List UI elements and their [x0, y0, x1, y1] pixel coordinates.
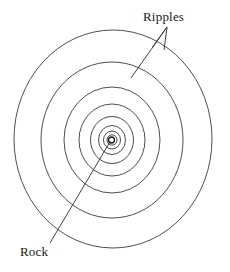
ripples-leader [131, 27, 167, 78]
ring-mid-3 [99, 126, 126, 155]
ripples-arrow-head [153, 27, 168, 50]
rock-label: Rock [20, 245, 48, 258]
ring-outer-1 [14, 30, 212, 248]
ring-mid-1 [79, 104, 145, 176]
ring-outer-2 [41, 62, 183, 218]
ring-inner-1 [104, 131, 121, 149]
ring-mid-2 [91, 117, 134, 164]
ripples-diagram: Ripples Rock [0, 0, 230, 272]
ripples-label: Ripples [143, 10, 184, 23]
ripple-canvas [0, 0, 230, 272]
ring-outer-3 [64, 87, 160, 193]
ripple-rings [14, 30, 212, 248]
